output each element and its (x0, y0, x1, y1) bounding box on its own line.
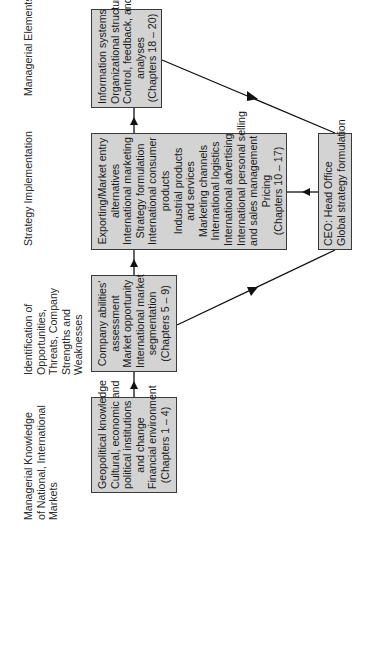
column-header-identification: Identification of Opportunities, Threats… (22, 288, 85, 375)
box-elements-text: Information systems Organizational struc… (96, 12, 159, 104)
box-implementation-text: Exporting/Market entry alternatives Inte… (96, 136, 285, 246)
column-header-knowledge: Managerial Knowledge of National, Intern… (22, 405, 60, 520)
column-header-elements: Managerial Elements (22, 0, 35, 96)
box-ceo-text: CEO: Head Office Global strategy formula… (322, 136, 347, 246)
column-header-implementation: Strategy Implementation (22, 131, 35, 246)
box-knowledge-text: Geopolitical knowledge Cultural, economi… (96, 401, 172, 489)
box-identification-text: Company abilities' assessment Market opp… (96, 279, 172, 368)
